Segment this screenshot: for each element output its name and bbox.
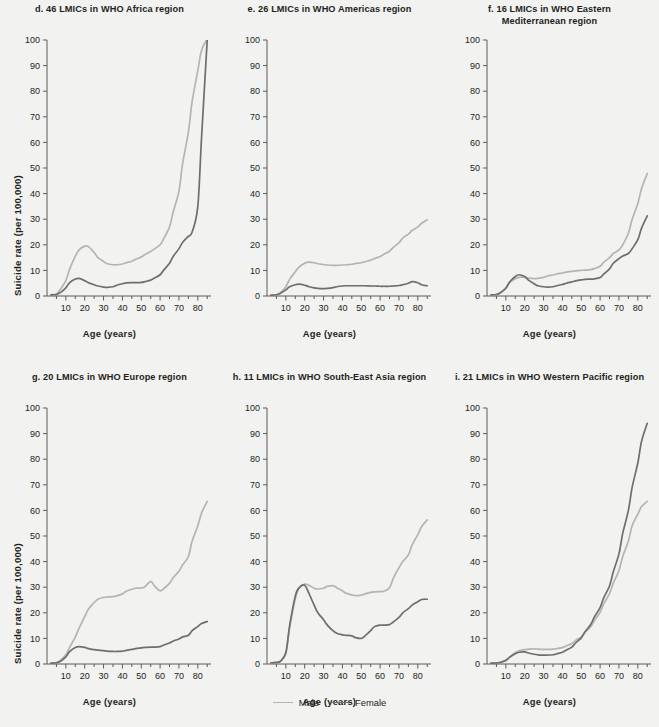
svg-text:30: 30 [470,582,480,592]
svg-text:70: 70 [614,671,624,681]
x-axis-label-d: Age (years) [0,328,219,339]
svg-text:20: 20 [520,671,530,681]
legend-swatch-female [329,702,349,703]
svg-text:50: 50 [136,671,146,681]
svg-text:10: 10 [250,634,260,644]
line-male-g [51,501,207,663]
svg-text:20: 20 [80,303,90,313]
svg-text:20: 20 [300,303,310,313]
svg-text:60: 60 [595,303,605,313]
x-axis-ticks-f: 1020304050607080 [496,296,647,313]
svg-text:80: 80 [250,86,260,96]
svg-text:60: 60 [595,671,605,681]
panel-f: f. 16 LMICs in WHO Eastern Mediterranean… [440,4,659,354]
x-axis-ticks-d: 1020304050607080 [56,296,207,313]
svg-text:10: 10 [30,266,40,276]
svg-text:100: 100 [25,403,40,413]
svg-text:30: 30 [539,671,549,681]
svg-text:90: 90 [250,61,260,71]
axes-e [267,40,431,296]
svg-text:80: 80 [250,454,260,464]
plot-d: 01020304050607080901001020304050607080Ag… [0,4,219,354]
svg-text:70: 70 [30,112,40,122]
svg-text:50: 50 [30,163,40,173]
svg-text:100: 100 [245,35,260,45]
svg-text:0: 0 [255,291,260,301]
svg-text:60: 60 [30,138,40,148]
svg-text:40: 40 [557,303,567,313]
x-axis-label-e: Age (years) [220,328,439,339]
svg-text:20: 20 [250,240,260,250]
svg-text:0: 0 [475,659,480,669]
svg-text:10: 10 [250,266,260,276]
series-group-i [491,423,647,663]
svg-text:70: 70 [174,671,184,681]
svg-text:40: 40 [250,557,260,567]
y-axis-ticks-d: 0102030405060708090100 [25,35,47,301]
svg-text:70: 70 [250,480,260,490]
panel-e: e. 26 LMICs in WHO Americas region 01020… [220,4,439,354]
svg-text:30: 30 [250,582,260,592]
chart-svg-f: 01020304050607080901001020304050607080 [440,4,659,354]
svg-text:0: 0 [35,291,40,301]
chart-svg-d: 01020304050607080901001020304050607080 [0,4,219,354]
svg-text:50: 50 [136,303,146,313]
svg-text:30: 30 [250,214,260,224]
svg-text:40: 40 [250,189,260,199]
svg-text:50: 50 [470,163,480,173]
svg-text:40: 40 [470,189,480,199]
svg-text:70: 70 [614,303,624,313]
svg-text:80: 80 [633,303,643,313]
svg-text:30: 30 [319,671,329,681]
svg-text:50: 50 [356,671,366,681]
svg-text:70: 70 [174,303,184,313]
svg-text:50: 50 [250,531,260,541]
legend-item-male: Male [273,697,319,708]
y-axis-ticks-f: 0102030405060708090100 [465,35,487,301]
svg-text:30: 30 [319,303,329,313]
svg-text:50: 50 [576,671,586,681]
svg-text:20: 20 [470,240,480,250]
svg-text:90: 90 [30,429,40,439]
svg-text:10: 10 [281,671,291,681]
svg-text:30: 30 [30,582,40,592]
svg-text:10: 10 [61,671,71,681]
svg-text:20: 20 [80,671,90,681]
svg-text:80: 80 [413,671,423,681]
svg-text:70: 70 [470,112,480,122]
svg-text:70: 70 [394,303,404,313]
svg-text:60: 60 [30,506,40,516]
svg-text:60: 60 [470,506,480,516]
svg-text:10: 10 [281,303,291,313]
axes-i [487,408,651,664]
svg-text:30: 30 [99,303,109,313]
x-axis-ticks-e: 1020304050607080 [276,296,427,313]
svg-text:40: 40 [557,671,567,681]
svg-text:80: 80 [30,454,40,464]
svg-text:20: 20 [30,240,40,250]
svg-text:100: 100 [465,35,480,45]
legend-item-female: Female [329,697,386,708]
svg-text:20: 20 [30,608,40,618]
svg-text:10: 10 [470,266,480,276]
plot-e: 01020304050607080901001020304050607080Ag… [220,4,439,354]
svg-text:90: 90 [30,61,40,71]
svg-text:80: 80 [470,86,480,96]
x-axis-ticks-h: 1020304050607080 [276,664,427,681]
axes-h [267,408,431,664]
svg-text:0: 0 [255,659,260,669]
line-female-e [271,282,427,296]
line-male-h [271,520,427,663]
svg-text:30: 30 [470,214,480,224]
svg-text:80: 80 [193,671,203,681]
series-group-d [51,39,207,295]
svg-text:20: 20 [470,608,480,618]
series-group-e [271,220,427,296]
x-axis-ticks-i: 1020304050607080 [496,664,647,681]
axes-g [47,408,211,664]
legend-label-male: Male [299,697,319,708]
svg-text:50: 50 [30,531,40,541]
y-axis-ticks-e: 0102030405060708090100 [245,35,267,301]
svg-text:60: 60 [250,506,260,516]
svg-text:60: 60 [470,138,480,148]
